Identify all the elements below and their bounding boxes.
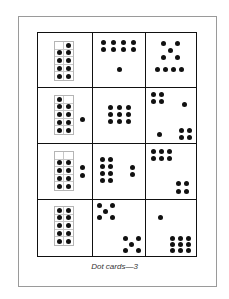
ten-frame: [54, 95, 74, 135]
dot: [179, 67, 184, 72]
ten-frame-slot-filled: [64, 160, 73, 168]
dot: [171, 67, 176, 72]
dot: [130, 165, 135, 170]
dot: [97, 203, 102, 208]
dot-card-r2c2: [93, 88, 146, 144]
dot: [176, 189, 181, 194]
ten-frame-slot-filled: [55, 119, 64, 127]
dot: [130, 172, 135, 177]
ten-frame: [54, 206, 74, 246]
dot: [186, 242, 191, 247]
ten-frame-slot-filled: [64, 57, 73, 65]
ten-frame-slot-filled: [55, 182, 64, 190]
dot: [151, 92, 156, 97]
dot: [117, 112, 122, 117]
dot: [110, 203, 115, 208]
dot: [178, 242, 183, 247]
dot-card-r3c3: [146, 144, 196, 200]
dot: [184, 189, 189, 194]
dot: [168, 48, 173, 53]
dot: [117, 67, 122, 72]
ten-frame-slot-filled: [55, 237, 64, 245]
ten-frame-slot-filled: [55, 104, 64, 112]
dot: [117, 119, 122, 124]
dot: [186, 248, 191, 253]
dot: [100, 171, 105, 176]
ten-frame-slot-filled: [55, 207, 64, 215]
dot: [100, 157, 105, 162]
dot: [179, 135, 184, 140]
dot-card-r3c1: [38, 144, 93, 200]
dot: [187, 135, 192, 140]
ten-frame-slot-filled: [55, 72, 64, 80]
dot-card-r4c3: [146, 200, 196, 256]
dot: [117, 105, 122, 110]
dot: [80, 173, 85, 178]
ten-frame-slot-filled: [55, 160, 64, 168]
dot: [121, 47, 126, 52]
dot: [187, 128, 192, 133]
dot-card-r2c3: [146, 88, 196, 144]
dot-card-r4c2: [93, 200, 146, 256]
dot: [101, 40, 106, 45]
dot: [108, 171, 113, 176]
dot: [80, 165, 85, 170]
ten-frame-slot-filled: [55, 167, 64, 175]
dot: [167, 149, 172, 154]
dot: [136, 236, 141, 241]
ten-frame-slot-filled: [64, 119, 73, 127]
ten-frame-slot-filled: [55, 96, 64, 104]
dot: [176, 181, 181, 186]
ten-frame-slot-filled: [55, 126, 64, 134]
dot-card-r2c1: [38, 88, 93, 144]
dot: [136, 248, 141, 253]
ten-frame-slot-filled: [64, 222, 73, 230]
dot: [167, 156, 172, 161]
dot: [80, 117, 85, 122]
ten-frame-slot-filled: [55, 50, 64, 58]
ten-frame-slot-filled: [64, 230, 73, 238]
ten-frame-slot-filled: [64, 175, 73, 183]
ten-frame-slot-filled: [55, 215, 64, 223]
dot: [100, 178, 105, 183]
dot: [170, 236, 175, 241]
dot: [108, 178, 113, 183]
dot: [159, 156, 164, 161]
dot: [121, 40, 126, 45]
ten-frame-slot-filled: [64, 126, 73, 134]
ten-frame-slot-filled: [64, 182, 73, 190]
dot: [186, 236, 191, 241]
dot-card-grid: [37, 32, 197, 257]
dot: [151, 149, 156, 154]
dot-card-r1c1: [38, 33, 93, 88]
dot: [131, 47, 136, 52]
dot: [108, 157, 113, 162]
dot: [159, 99, 164, 104]
dot: [170, 242, 175, 247]
dot: [101, 47, 106, 52]
dot: [126, 119, 131, 124]
dot: [123, 236, 128, 241]
dot-card-r3c2: [93, 144, 146, 200]
dot: [170, 248, 175, 253]
ten-frame-slot-filled: [64, 207, 73, 215]
ten-frame-slot-filled: [64, 72, 73, 80]
ten-frame-slot-filled: [55, 222, 64, 230]
dot: [123, 248, 128, 253]
ten-frame-slot-filled: [55, 175, 64, 183]
dot: [126, 105, 131, 110]
dot: [111, 40, 116, 45]
dot: [161, 41, 166, 46]
dot: [175, 41, 180, 46]
ten-frame-slot-filled: [64, 237, 73, 245]
dot: [110, 215, 115, 220]
dot: [155, 67, 160, 72]
ten-frame-slot-empty: [55, 42, 64, 50]
dot: [182, 102, 187, 107]
dot: [108, 164, 113, 169]
dot-card-r1c3: [146, 33, 196, 88]
dot: [131, 40, 136, 45]
dot: [108, 105, 113, 110]
dot: [126, 112, 131, 117]
dot-card-r4c1: [38, 200, 93, 256]
